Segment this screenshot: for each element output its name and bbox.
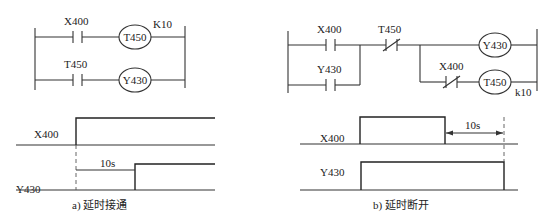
caption: a) 延时接通 — [72, 199, 127, 212]
timing-diagram-a: X400 Y430 10s a) 延时接通 — [16, 118, 215, 212]
contact-label: T450 — [378, 23, 402, 35]
plc-timer-diagrams: X400 T450 K10 T450 Y430 X400 — [0, 0, 546, 222]
timing-diagram-b: X400 Y430 10s b) 延时断开 — [300, 117, 518, 212]
delay-label: 10s — [100, 157, 115, 169]
rung-1: X400 T450 K10 — [35, 15, 185, 49]
contact-label: X400 — [317, 23, 342, 35]
signal-label: Y430 — [320, 166, 345, 178]
preset-label: k10 — [515, 86, 532, 98]
signal-label: Y430 — [16, 183, 41, 195]
coil-label: T450 — [483, 76, 507, 88]
no-contact-icon — [326, 79, 335, 91]
coil-label: Y430 — [123, 74, 148, 86]
no-contact-icon — [326, 39, 335, 51]
contact-label: X400 — [64, 15, 89, 27]
no-contact-icon — [73, 74, 82, 86]
y430-waveform — [361, 162, 504, 190]
coil-label: T450 — [123, 31, 147, 43]
y430-waveform — [135, 164, 215, 190]
delay-arrow — [446, 131, 503, 136]
rung-2: T450 Y430 — [35, 58, 185, 92]
contact-label: T450 — [64, 58, 88, 70]
signal-label: X400 — [320, 132, 345, 144]
no-contact-icon — [73, 31, 82, 43]
preset-label: K10 — [153, 18, 172, 30]
delay-label: 10s — [465, 119, 480, 131]
ladder-diagram-a: X400 T450 K10 T450 Y430 — [35, 15, 185, 92]
x400-waveform — [76, 118, 215, 145]
ladder-diagram-b: X400 Y430 T450 Y430 X400 — [288, 23, 537, 98]
signal-label: X400 — [34, 128, 59, 140]
coil-label: Y430 — [483, 39, 508, 51]
contact-label: X400 — [439, 60, 464, 72]
x400-waveform — [360, 117, 445, 144]
caption: b) 延时断开 — [373, 198, 429, 212]
contact-label: Y430 — [317, 63, 342, 75]
